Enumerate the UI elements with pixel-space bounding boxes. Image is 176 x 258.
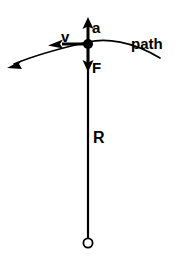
diagram-canvas: a v F R path: [0, 0, 176, 258]
path-arrowhead-icon: [7, 60, 22, 69]
bob-node: [83, 39, 93, 49]
radius-label: R: [93, 129, 105, 146]
velocity-label: v: [61, 28, 70, 45]
path-label: path: [131, 35, 163, 52]
physics-diagram: a v F R path: [0, 0, 176, 258]
pivot-circle: [83, 238, 92, 247]
force-label: F: [92, 59, 101, 76]
acceleration-label: a: [92, 19, 101, 36]
